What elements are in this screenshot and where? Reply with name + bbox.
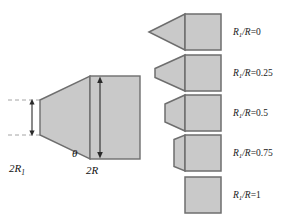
variant-shape-0-svg — [145, 10, 230, 54]
variant-0-body — [185, 14, 221, 50]
variant-row-2: R1/R=0.5 — [145, 91, 297, 135]
body-diameter-label: 2R — [86, 164, 98, 176]
variant-1-cone — [155, 55, 185, 91]
variant-0-cone — [149, 14, 185, 50]
variant-0-label: R1/R=0 — [233, 27, 261, 37]
variant-row-0: R1/R=0 — [145, 10, 297, 54]
variant-4-label: R1/R=1 — [233, 190, 261, 200]
variant-3-cone — [174, 135, 185, 171]
variant-shape-1-svg — [145, 51, 230, 95]
nose-cone-trapezoid — [40, 76, 90, 159]
variant-2-label: R1/R=0.5 — [233, 108, 268, 118]
variant-shape-2-svg — [145, 91, 230, 135]
variant-row-1: R1/R=0.25 — [145, 51, 297, 95]
variant-3-body — [185, 135, 221, 171]
variant-1-label: R1/R=0.25 — [233, 68, 273, 78]
variant-shape-3-svg — [145, 131, 230, 175]
variant-row-4: R1/R=1 — [145, 173, 297, 217]
variant-2-body — [185, 95, 221, 131]
body-rectangle — [90, 76, 140, 159]
main-nose-geometry-diagram: 2R1 2R θ — [0, 62, 150, 172]
variant-2-cone — [165, 95, 185, 131]
variant-shape-4-svg — [145, 173, 230, 217]
small-diameter-label: 2R1 — [9, 162, 25, 174]
variant-1-body — [185, 55, 221, 91]
cone-half-angle-label: θ — [72, 147, 77, 159]
variant-row-3: R1/R=0.75 — [145, 131, 297, 175]
variant-4-body — [185, 177, 221, 213]
variant-3-label: R1/R=0.75 — [233, 148, 273, 158]
small-diameter-dimension-arrow — [29, 99, 34, 136]
nose-shape-figure: 2R1 2R θ R1/R=0 R1/R=0.25 R1/R=0.5 — [0, 0, 297, 222]
